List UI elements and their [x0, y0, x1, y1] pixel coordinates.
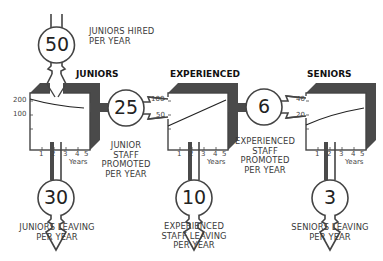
experienced-xtick-1: 1 [177, 150, 181, 158]
juniors-xtick-5: 5 [84, 150, 88, 158]
inflow-label: JUNIORS HIRED PER YEAR [89, 27, 154, 46]
juniors-stock-box [30, 82, 100, 150]
seniors-xtick-2: 2 [327, 150, 331, 158]
seniors-xunit: Years [345, 158, 363, 166]
juniors-ytick-200: 200 [13, 96, 26, 104]
stage-heading-juniors: JUNIORS [76, 69, 119, 79]
transfer-juniors-label: JUNIOR STAFF PROMOTED PER YEAR [95, 141, 157, 179]
juniors-xunit: Years [69, 158, 87, 166]
outflow-experienced-value: 10 [173, 186, 215, 208]
outflow-juniors-label: JUNIORS LEAVING PER YEAR [13, 223, 101, 242]
experienced-ytick-100: 100 [151, 95, 164, 103]
outflow-experienced-label: EXPERIENCED STAFF LEAVING PER YEAR [151, 222, 237, 251]
stage-heading-seniors: SENIORS [307, 69, 352, 79]
experienced-xtick-5: 5 [222, 150, 226, 158]
experienced-ytick-50: 50 [156, 111, 165, 119]
seniors-ytick-40: 40 [296, 95, 305, 103]
transfer-experienced-value: 6 [243, 95, 285, 117]
transfer-experienced-label: EXPERIENCED STAFF PROMOTED PER YEAR [232, 137, 298, 175]
juniors-xtick-2: 2 [51, 150, 55, 158]
juniors-xtick-4: 4 [75, 150, 79, 158]
stage-heading-experienced: EXPERIENCED [170, 69, 240, 79]
outflow-seniors-label: SENIORS LEAVING PER YEAR [286, 223, 374, 242]
experienced-xunit: Years [207, 158, 225, 166]
experienced-xtick-2: 2 [189, 150, 193, 158]
inflow-value: 50 [36, 33, 78, 55]
seniors-xtick-1: 1 [315, 150, 319, 158]
outflow-seniors-value: 3 [309, 186, 351, 208]
transfer-juniors-value: 25 [105, 96, 147, 118]
juniors-ytick-100: 100 [13, 110, 26, 118]
experienced-xtick-3: 3 [201, 150, 205, 158]
seniors-xtick-5: 5 [360, 150, 364, 158]
juniors-xtick-1: 1 [39, 150, 43, 158]
seniors-xtick-3: 3 [339, 150, 343, 158]
juniors-xtick-3: 3 [63, 150, 67, 158]
seniors-ytick-20: 20 [296, 111, 305, 119]
experienced-xtick-4: 4 [213, 150, 217, 158]
outflow-juniors-value: 30 [35, 186, 77, 208]
seniors-xtick-4: 4 [351, 150, 355, 158]
